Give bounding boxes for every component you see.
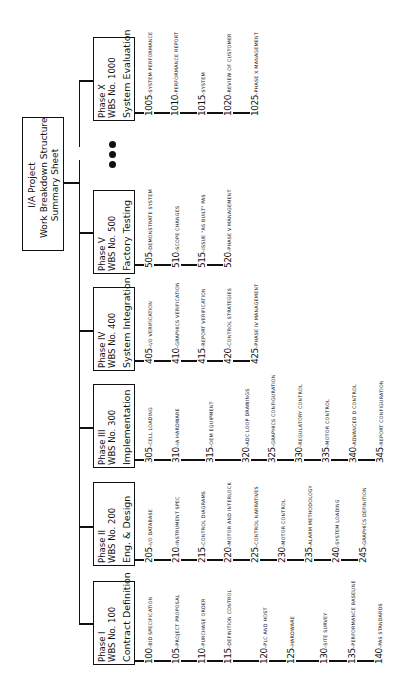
phase-title: Contract Definition: [122, 586, 132, 662]
wbs-item-dash: –: [175, 545, 180, 548]
wbs-item-number: 130: [319, 648, 329, 664]
root-box: I/A Project Work Breakdown Structure Sum…: [22, 117, 64, 251]
wbs-item-text: DEMONSTRATE SYSTEM: [148, 189, 153, 249]
wbs-item-dash: –: [379, 445, 384, 448]
wbs-item-number: 305: [144, 447, 154, 463]
wbs-item-number: 135: [347, 648, 357, 664]
wbs-item: 125–HARDWARE: [286, 616, 298, 664]
wbs-item-text: PERFORMANCE BASELINE: [351, 580, 356, 645]
wbs-item-text: REGULATORY CONTROL: [298, 384, 303, 445]
wbs-item: 210–INSTRUMENT SPEC: [171, 496, 183, 563]
wbs-item: 335–MOTOR CONTROL: [321, 399, 333, 463]
phase-box: Phase IWBS No. 100Contract Definition: [93, 581, 135, 665]
wbs-item-dash: –: [201, 545, 206, 548]
root-line-3: Summary Sheet: [50, 132, 62, 238]
wbs-item-number: 220: [223, 547, 233, 563]
wbs-item-number: 1020: [223, 95, 233, 116]
wbs-item: 120–PLC AND HOST: [259, 607, 271, 664]
phase-label: Phase IV: [97, 292, 107, 368]
wbs-item-dash: –: [378, 646, 383, 649]
wbs-item-text: I/O DATABASE: [148, 509, 153, 545]
wbs-item: 330–REGULATORY CONTROL: [294, 384, 306, 463]
phase-connector: [79, 330, 93, 332]
wbs-item: 505–DEMONSTRATE SYSTEM: [144, 189, 156, 268]
wbs-item-number: 330: [294, 447, 304, 463]
wbs-item: 1005–SYSTEM PERFORMANCE: [144, 32, 156, 116]
wbs-item-dash: –: [254, 346, 259, 349]
wbs-number: WBS No. 400: [107, 292, 117, 368]
wbs-item-number: 425: [250, 348, 260, 364]
wbs-item-text: PROJECT PROPOSAL: [175, 594, 180, 645]
wbs-item: 235–ALARM METHODOLOGY: [304, 485, 316, 563]
wbs-number: WBS No. 300: [107, 389, 117, 465]
phase-label: Phase X: [97, 42, 107, 118]
wbs-item-text: CONTROL STRATEGIES: [227, 288, 232, 346]
wbs-item-dash: –: [254, 92, 259, 95]
wbs-item-dash: –: [227, 250, 232, 253]
wbs-item-text: SITE SURVEY: [323, 613, 328, 646]
wbs-item-dash: –: [308, 545, 313, 548]
wbs-item-dash: –: [227, 545, 232, 548]
wbs-item: 425–PHASE IV MANAGEMENT: [250, 284, 262, 364]
phase-box: Phase IIIWBS No. 300Implementation: [93, 384, 135, 468]
wbs-item-dash: –: [175, 445, 180, 448]
phase-title: Implementation: [122, 389, 132, 465]
wbs-item-text: INSTRUMENT SPEC: [175, 496, 180, 544]
wbs-item-number: 1025: [250, 95, 260, 116]
wbs-item: 225–CONTROL NARRATIVES: [250, 486, 262, 563]
wbs-item-dash: –: [148, 92, 153, 95]
wbs-item-dash: –: [362, 545, 367, 548]
wbs-item-number: 205: [144, 547, 154, 563]
wbs-item-text: MOTOR AND INTERLOCK: [227, 482, 232, 544]
root-connector: [64, 182, 79, 184]
wbs-item-number: 105: [171, 648, 181, 664]
phase-box: Phase XWBS No. 1000System Evaluation: [93, 37, 135, 121]
phase-connector: [79, 427, 93, 429]
wbs-item-number: 415: [197, 348, 207, 364]
phase-connector: [79, 80, 93, 82]
wbs-item-text: PHASE V MANAGEMENT: [227, 189, 232, 249]
wbs-item-text: PERFORMANCE REPORT: [174, 32, 179, 93]
phase-label: Phase II: [97, 487, 107, 563]
wbs-item-text: BID SPECIFICATION: [148, 597, 153, 646]
wbs-item-text: SYSTEM PERFORMANCE: [148, 32, 153, 93]
wbs-item-text: MOTOR CONTROL: [325, 399, 330, 445]
wbs-item-dash: –: [290, 646, 295, 649]
wbs-item: 1015–SYSTEM: [197, 72, 209, 116]
wbs-item: 420–CONTROL STRATEGIES: [223, 288, 235, 364]
wbs-item-text: SYSTEM: [201, 72, 206, 92]
wbs-item-dash: –: [323, 646, 328, 649]
wbs-item: 135–PERFORMANCE BASELINE: [347, 580, 359, 664]
wbs-item-text: PHASE IV MANAGEMENT: [254, 284, 259, 346]
trunk-lower: [79, 160, 81, 624]
wbs-item-number: 120: [259, 648, 269, 664]
wbs-item-number: 230: [277, 547, 287, 563]
wbs-item-number: 315: [205, 447, 215, 463]
wbs-item-text: HARDWARE: [290, 616, 295, 646]
wbs-item-number: 335: [321, 447, 331, 463]
phase-label: Phase III: [97, 389, 107, 465]
wbs-item: 320–ADC LOOP DRAWINGS: [241, 389, 253, 463]
phase-connector: [79, 623, 93, 625]
wbs-item-dash: –: [352, 445, 357, 448]
wbs-item: 515–ISSUE "AS BUILT" PAS: [197, 194, 209, 268]
wbs-item-dash: –: [201, 646, 206, 649]
wbs-item-dash: –: [227, 92, 232, 95]
wbs-item-number: 110: [197, 648, 207, 664]
wbs-item-text: CONTROL DIAGRAMS: [201, 491, 206, 545]
wbs-item-text: ALARM METHODOLOGY: [308, 485, 313, 544]
wbs-item-text: MOTOR CONTROL: [281, 499, 286, 545]
wbs-item-text: GRAPHICS CONFIGURATION: [271, 374, 276, 444]
item-baseline: [135, 559, 363, 561]
wbs-item-number: 1005: [144, 95, 154, 116]
wbs-item: 205–I/O DATABASE: [144, 509, 156, 563]
wbs-item-number: 240: [331, 547, 341, 563]
wbs-item-text: PURCHASE ORDER: [201, 598, 206, 645]
wbs-item-text: IA HARDWARE: [175, 408, 180, 444]
wbs-item-dash: –: [227, 646, 232, 649]
phase-label: Phase V: [97, 195, 107, 271]
wbs-item-number: 210: [171, 547, 181, 563]
wbs-item-number: 340: [348, 447, 358, 463]
wbs-item: 510–SCOPE CHANGES: [171, 206, 183, 268]
phase-title: System Integration: [122, 292, 132, 368]
